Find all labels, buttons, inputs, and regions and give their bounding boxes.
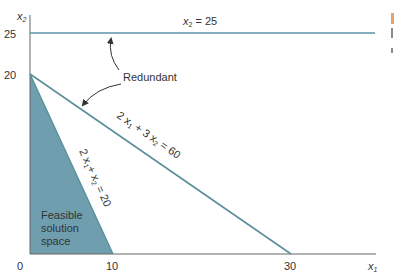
edge-gray-mark-2 <box>391 48 393 53</box>
lp-graph: 0 10 30 25 20 x2 x1 x2 = 25 Redundant 2 … <box>0 0 394 274</box>
redundant-arrow-up <box>110 39 119 70</box>
redundant-arrow-down <box>83 84 121 105</box>
tick-label-x-10: 10 <box>106 260 118 272</box>
edge-gray-mark <box>391 28 393 38</box>
redundant-label: Redundant <box>123 71 177 83</box>
axis-label-x2: x2 <box>16 10 27 23</box>
label-2x1-3x2-60: 2 x1 + 3 x2 = 60 <box>114 109 183 162</box>
tick-label-x-0: 0 <box>17 260 23 272</box>
tick-label-x-30: 30 <box>284 260 296 272</box>
label-x2-25: x2 = 25 <box>182 15 217 28</box>
tick-label-y-25: 25 <box>4 28 16 40</box>
tick-label-y-20: 20 <box>4 69 16 81</box>
axis-label-x1: x1 <box>367 260 378 273</box>
